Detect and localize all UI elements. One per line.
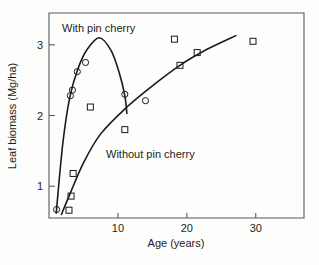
data-point-square — [66, 207, 72, 213]
plot-frame — [49, 13, 304, 218]
y-tick-label: 1 — [37, 180, 43, 192]
data-point-circle — [142, 98, 148, 104]
chart-canvas: 102030 123 Age (years) Leaf biomass (Mg/… — [0, 0, 319, 265]
x-axis-title: Age (years) — [148, 237, 205, 249]
curve-without-pin-cherry — [61, 36, 235, 215]
data-point-square — [122, 127, 128, 133]
data-point-square — [87, 104, 93, 110]
figure-container: 102030 123 Age (years) Leaf biomass (Mg/… — [0, 0, 319, 265]
y-axis-title: Leaf biomass (Mg/ha) — [6, 63, 18, 169]
data-point-square — [250, 38, 256, 44]
x-tick-label: 20 — [181, 222, 193, 234]
series-annotation-without-pin-cherry: Without pin cherry — [106, 148, 195, 160]
x-tick-label: 30 — [250, 222, 262, 234]
x-axis-ticks: 102030 — [112, 213, 262, 234]
y-tick-label: 3 — [37, 39, 43, 51]
data-point-square — [171, 36, 177, 42]
series-annotation-with-pin-cherry: With pin cherry — [62, 22, 136, 34]
curve-with-pin-cherry — [56, 38, 127, 213]
data-markers — [53, 36, 256, 213]
y-axis-ticks: 123 — [37, 39, 55, 192]
x-tick-label: 10 — [112, 222, 124, 234]
fitted-curves — [56, 36, 236, 215]
data-point-circle — [82, 59, 88, 65]
y-tick-label: 2 — [37, 110, 43, 122]
data-point-square — [70, 170, 76, 176]
